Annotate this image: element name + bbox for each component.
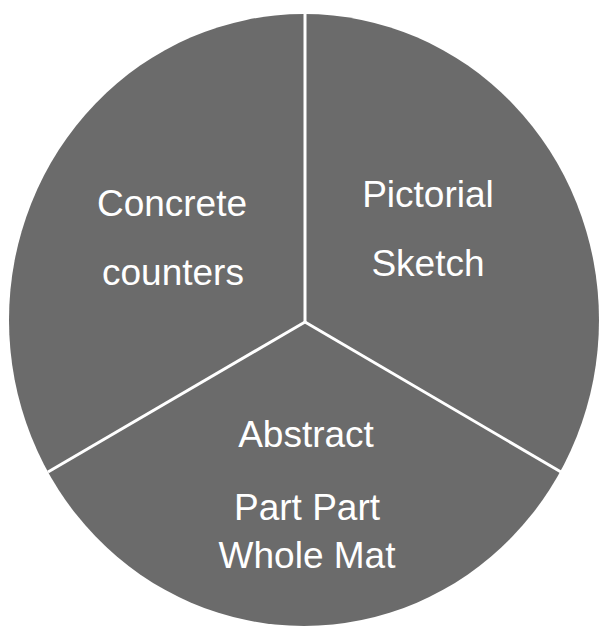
cpa-circle-diagram: Concrete counters Pictorial Sketch Abstr… [0,0,599,639]
sector-label-line: Part Part [234,487,381,528]
sector-abstract: Abstract Part Part Whole Mat [219,414,397,576]
sector-label-line: Pictorial [362,174,494,215]
sector-label-line: counters [102,252,244,293]
sector-label-line: Abstract [238,414,374,455]
sector-label-line: Sketch [371,243,484,284]
sector-label-line: Whole Mat [219,535,397,576]
sector-label-line: Concrete [97,183,247,224]
